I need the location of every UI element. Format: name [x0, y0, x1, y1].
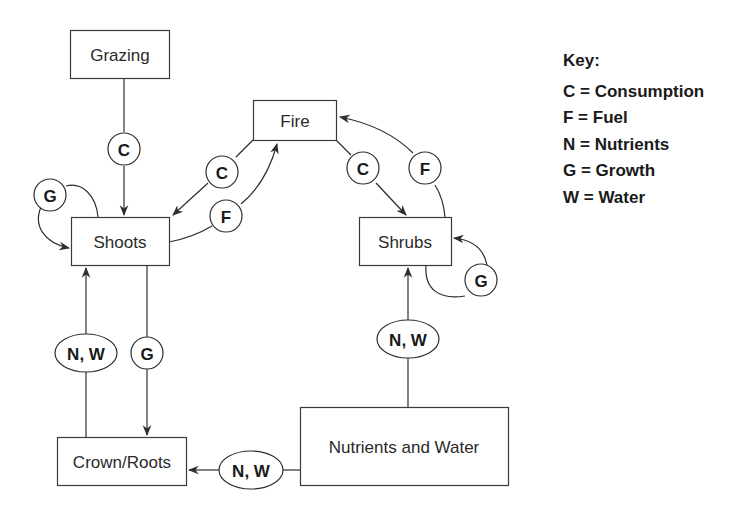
- label-shoots-fire-fuel: F: [210, 200, 242, 232]
- legend-title: Key:: [563, 48, 704, 75]
- svg-text:N, W: N, W: [67, 345, 106, 364]
- node-grazing: Grazing: [71, 31, 170, 79]
- svg-text:Shrubs: Shrubs: [378, 233, 432, 252]
- label-grazing-shoots-consumption: C: [108, 133, 140, 165]
- legend-item-nutrients: N = Nutrients: [563, 132, 704, 159]
- label-shoots-growth-loop: G: [34, 179, 66, 211]
- legend-item-water: W = Water: [563, 185, 704, 212]
- node-shrubs: Shrubs: [360, 218, 452, 266]
- label-shrubs-growth-loop: G: [465, 264, 497, 296]
- legend-item-fuel: F = Fuel: [563, 105, 704, 132]
- svg-text:F: F: [420, 160, 430, 179]
- svg-text:C: C: [118, 141, 130, 160]
- legend-item-growth: G = Growth: [563, 158, 704, 185]
- svg-text:F: F: [221, 208, 231, 227]
- label-roots-shoots-nutrients-water: N, W: [55, 334, 117, 372]
- svg-text:N, W: N, W: [389, 331, 428, 350]
- svg-text:C: C: [357, 160, 369, 179]
- svg-text:G: G: [474, 272, 487, 291]
- svg-text:Shoots: Shoots: [94, 233, 147, 252]
- label-shrubs-fire-fuel: F: [409, 152, 441, 184]
- node-nutrients-water: Nutrients and Water: [301, 408, 509, 486]
- label-fire-shoots-consumption: C: [206, 156, 238, 188]
- svg-text:N, W: N, W: [232, 462, 271, 481]
- legend-key: Key: C = Consumption F = Fuel N = Nutrie…: [563, 48, 704, 211]
- svg-text:G: G: [43, 187, 56, 206]
- svg-text:G: G: [140, 345, 153, 364]
- svg-text:Crown/Roots: Crown/Roots: [73, 453, 171, 472]
- svg-text:Nutrients and Water: Nutrients and Water: [329, 438, 480, 457]
- node-crown-roots: Crown/Roots: [58, 438, 187, 486]
- svg-text:Fire: Fire: [280, 112, 309, 131]
- node-fire: Fire: [254, 101, 337, 141]
- legend-item-consumption: C = Consumption: [563, 79, 704, 106]
- label-shoots-roots-growth: G: [131, 337, 163, 369]
- svg-text:C: C: [216, 164, 228, 183]
- node-shoots: Shoots: [72, 218, 170, 266]
- svg-text:Grazing: Grazing: [90, 46, 150, 65]
- label-nutrients-roots-nutrients-water: N, W: [219, 451, 283, 489]
- label-nutrients-shrubs-nutrients-water: N, W: [377, 320, 439, 358]
- label-fire-shrubs-consumption: C: [347, 152, 379, 184]
